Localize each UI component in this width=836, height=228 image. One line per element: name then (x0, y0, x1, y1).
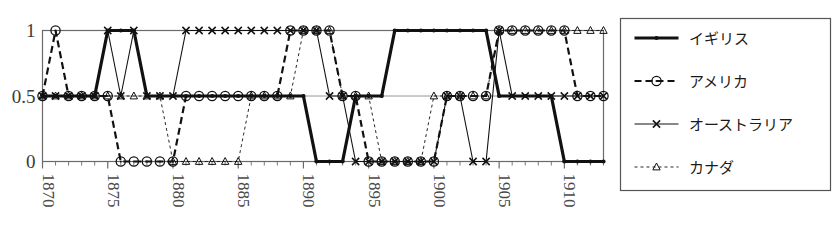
data-point-dot (262, 94, 266, 98)
data-point-dot (288, 94, 292, 98)
data-point-circle-center (485, 95, 487, 97)
legend: イギリスアメリカオーストラリアカナダ (621, 19, 831, 191)
y-axis: 00.51 (12, 20, 36, 172)
data-point-dot (510, 94, 514, 98)
data-point-dot (419, 28, 423, 32)
data-point-circle-center (120, 161, 122, 163)
legend-label: アメリカ (689, 73, 748, 91)
data-point-circle-center (603, 95, 605, 97)
data-point-circle-center (146, 161, 148, 163)
data-point-dot (471, 28, 475, 32)
data-point-triangle (430, 92, 437, 99)
data-point-dot (236, 94, 240, 98)
data-point-circle-center (433, 161, 435, 163)
data-point-circle-center (329, 30, 331, 32)
data-point-circle-center (656, 80, 658, 82)
data-point-dot (301, 94, 305, 98)
data-point-dot (458, 28, 462, 32)
data-point-circle-center (524, 30, 526, 32)
data-point-dot (588, 159, 592, 163)
data-point-dot (536, 94, 540, 98)
data-point-triangle (130, 92, 137, 99)
data-point-dot (145, 94, 149, 98)
data-point-circle-center (472, 95, 474, 97)
data-point-dot (275, 94, 279, 98)
data-point-dot (314, 159, 318, 163)
data-point-circle-center (381, 161, 383, 163)
x-tick-label: 1910 (560, 174, 579, 208)
data-point-circle-center (407, 161, 409, 163)
data-point-circle-center (172, 161, 174, 163)
data-point-dot (406, 28, 410, 32)
data-point-dot (601, 159, 605, 163)
x-tick-label: 1890 (299, 174, 318, 208)
data-point-dot (367, 94, 371, 98)
data-point-circle-center (589, 95, 591, 97)
chart-figure: 00.5118701875188018851890189519001905191… (0, 0, 836, 228)
data-point-circle-center (368, 161, 370, 163)
data-point-dot (562, 159, 566, 163)
data-point-dot (171, 94, 175, 98)
data-point-dot (523, 94, 527, 98)
data-point-dot (53, 94, 57, 98)
data-point-dot (210, 94, 214, 98)
data-point-circle-center (537, 30, 539, 32)
data-point-dot (354, 94, 358, 98)
data-point-circle-center (420, 161, 422, 163)
data-point-dot (80, 94, 84, 98)
data-point-circle-center (302, 30, 304, 32)
x-tick-label: 1885 (234, 174, 253, 208)
data-point-dot (93, 94, 97, 98)
data-point-dot (223, 94, 227, 98)
x-tick-label: 1880 (169, 174, 188, 208)
data-point-dot (66, 94, 70, 98)
data-point-dot (184, 94, 188, 98)
data-point-dot (158, 94, 162, 98)
x-tick-label: 1900 (430, 174, 449, 208)
data-point-circle-center (576, 95, 578, 97)
data-point-dot (40, 94, 44, 98)
data-point-dot (549, 94, 553, 98)
data-point-dot (340, 159, 344, 163)
data-point-dot (119, 28, 123, 32)
data-point-dot (497, 94, 501, 98)
data-point-circle-center (446, 95, 448, 97)
data-point-dot (197, 94, 201, 98)
data-point-dot (132, 28, 136, 32)
data-point-circle-center (550, 30, 552, 32)
data-point-circle-center (498, 30, 500, 32)
data-point-dot (380, 94, 384, 98)
data-point-dot (445, 28, 449, 32)
legend-label: カナダ (689, 159, 734, 177)
y-tick-label: 1 (26, 20, 36, 41)
data-point-circle-center (563, 30, 565, 32)
data-point-dot (249, 94, 253, 98)
data-point-dot (575, 159, 579, 163)
line-chart: 00.5118701875188018851890189519001905191… (0, 0, 836, 228)
data-point-circle-center (511, 30, 513, 32)
y-tick-label: 0 (26, 151, 36, 172)
data-point-circle-center (55, 30, 57, 32)
data-point-circle-center (133, 161, 135, 163)
data-point-dot (654, 36, 658, 40)
x-tick-label: 1875 (104, 174, 123, 208)
data-point-circle-center (289, 30, 291, 32)
data-point-circle-center (459, 95, 461, 97)
data-point-dot (327, 159, 331, 163)
data-point-circle-center (159, 161, 161, 163)
data-point-dot (484, 28, 488, 32)
legend-label: オーストラリア (689, 116, 793, 134)
x-tick-label: 1905 (495, 174, 514, 208)
x-tick-label: 1895 (365, 174, 384, 208)
legend-label: イギリス (689, 30, 749, 48)
data-point-dot (432, 28, 436, 32)
x-axis: 187018751880188518901895190019051910 (39, 162, 604, 208)
data-point-circle-center (342, 95, 344, 97)
y-tick-label: 0.5 (12, 86, 36, 107)
data-point-circle-center (315, 30, 317, 32)
data-point-circle-center (394, 161, 396, 163)
data-point-circle-center (107, 95, 109, 97)
x-tick-label: 1870 (39, 174, 58, 208)
data-point-dot (393, 28, 397, 32)
data-point-dot (106, 28, 110, 32)
